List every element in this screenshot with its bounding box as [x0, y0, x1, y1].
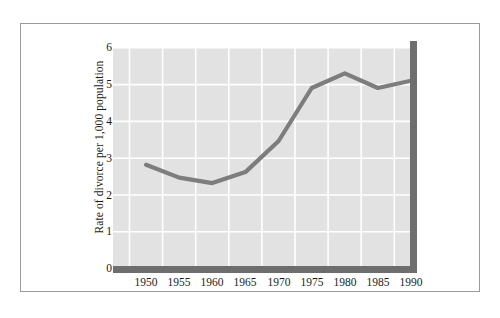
y-axis-tick-0: 0: [92, 262, 112, 274]
y-axis-tick-1: 1: [92, 225, 112, 237]
right-axis-slab: [410, 41, 417, 273]
y-axis-tick-2: 2: [92, 189, 112, 201]
y-axis-tick-6: 6: [92, 41, 112, 53]
x-axis-tick-1990: 1990: [391, 276, 431, 288]
y-axis-tick-4: 4: [92, 115, 112, 127]
x-axis-slab: [113, 266, 417, 273]
y-axis-tick-3: 3: [92, 152, 112, 164]
divorce-rate-series-line: [146, 73, 411, 183]
y-axis-tick-5: 5: [92, 78, 112, 90]
divorce-rate-line-chart: Rate of divorce per 1,000 population 6 5…: [0, 0, 500, 318]
plot-svg: [113, 47, 411, 268]
plot-panel: [113, 47, 411, 268]
